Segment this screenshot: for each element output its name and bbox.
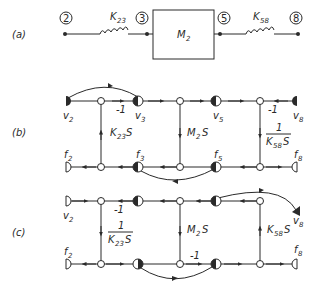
summing-node — [177, 198, 184, 205]
gain-label: -1 — [116, 104, 126, 115]
schematic-a: (a) 2 3 5 8 M 2 — [12, 10, 302, 59]
svg-text:2: 2 — [69, 216, 74, 224]
mixed-node — [211, 259, 221, 269]
node-3-marker: 3 — [136, 12, 148, 24]
node-2-marker: 2 — [60, 12, 72, 24]
source-v8-node — [292, 96, 297, 106]
summing-node — [98, 164, 105, 171]
svg-text:8: 8 — [299, 116, 304, 124]
spring-k23-icon — [100, 27, 128, 34]
svg-text:58: 58 — [260, 17, 269, 25]
source-v2-node — [66, 196, 71, 206]
mixed-node — [211, 196, 221, 206]
svg-text:3: 3 — [141, 116, 145, 124]
gain-inverse-k23s: 1 K 23 S — [108, 220, 133, 248]
svg-text:S: S — [202, 224, 209, 235]
sink-f8-node — [292, 259, 297, 269]
svg-text:M: M — [177, 29, 186, 40]
signal-flow-graph-c: (c) — [12, 188, 304, 281]
node-f5 — [211, 162, 221, 172]
gain-k23s: K 23 S — [110, 127, 133, 141]
svg-text:2: 2 — [196, 133, 201, 141]
spring-k58-icon — [246, 27, 274, 34]
summing-node — [257, 98, 264, 105]
part-label-b: (b) — [12, 127, 26, 138]
svg-text:8: 8 — [299, 221, 304, 229]
summing-node — [177, 164, 184, 171]
svg-text:58: 58 — [273, 142, 282, 150]
sink-f2-node — [66, 162, 71, 172]
svg-text:23: 23 — [117, 133, 126, 141]
node-v3 — [133, 96, 143, 106]
svg-text:S: S — [126, 127, 133, 138]
gain-label: -1 — [190, 250, 200, 261]
gain-m2s: M 2 S — [187, 224, 209, 238]
svg-text:58: 58 — [274, 230, 283, 238]
summing-node — [257, 164, 264, 171]
svg-text:2: 2 — [63, 13, 69, 24]
node-f3 — [133, 162, 143, 172]
sink-f2-node — [66, 259, 71, 269]
svg-text:1: 1 — [118, 220, 124, 231]
svg-text:M: M — [187, 224, 196, 235]
summing-node — [98, 198, 105, 205]
svg-text:S: S — [283, 136, 290, 147]
svg-text:2: 2 — [196, 230, 201, 238]
svg-text:2: 2 — [69, 116, 74, 124]
gain-label: -1 — [114, 204, 124, 215]
mixed-node — [133, 259, 143, 269]
node-8-marker: 8 — [290, 12, 302, 24]
svg-text:3: 3 — [140, 155, 144, 163]
node-v5 — [211, 96, 221, 106]
svg-text:5: 5 — [221, 13, 227, 24]
gain-m2s: M 2 S — [187, 127, 209, 141]
summing-node — [98, 261, 105, 268]
summing-node — [257, 198, 264, 205]
svg-text:23: 23 — [115, 240, 124, 248]
sink-f8-node — [292, 162, 297, 172]
gain-inverse-k58s: 1 K 58 S — [266, 122, 291, 150]
source-v2-node — [66, 96, 71, 106]
node-5-marker: 5 — [218, 12, 230, 24]
svg-text:2: 2 — [186, 35, 191, 43]
part-label-a: (a) — [12, 29, 26, 40]
mixed-node — [133, 196, 143, 206]
svg-text:8: 8 — [298, 250, 303, 258]
summing-node — [177, 261, 184, 268]
svg-text:5: 5 — [219, 116, 224, 124]
summing-node — [177, 98, 184, 105]
svg-text:M: M — [187, 127, 196, 138]
svg-text:2: 2 — [68, 155, 73, 163]
svg-text:S: S — [202, 127, 209, 138]
svg-text:8: 8 — [293, 13, 299, 24]
gain-label: -1 — [268, 104, 278, 115]
svg-text:8: 8 — [298, 155, 303, 163]
svg-text:S: S — [125, 234, 132, 245]
summing-node — [257, 261, 264, 268]
signal-flow-graph-b: (b) — [12, 83, 304, 184]
svg-text:3: 3 — [139, 13, 145, 24]
svg-text:2: 2 — [68, 252, 73, 260]
summing-node — [98, 98, 105, 105]
svg-text:S: S — [284, 224, 291, 235]
svg-text:1: 1 — [276, 122, 282, 133]
gain-k58s: K 58 S — [267, 224, 291, 238]
svg-text:5: 5 — [218, 155, 223, 163]
svg-text:23: 23 — [117, 17, 126, 25]
mechanical-system-signal-flow-diagram: (a) 2 3 5 8 M 2 — [0, 0, 315, 285]
part-label-c: (c) — [12, 227, 25, 238]
